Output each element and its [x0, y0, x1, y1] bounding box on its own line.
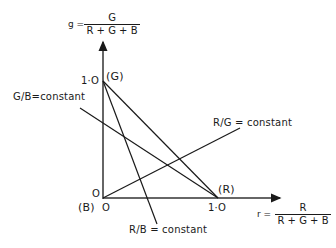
g-unit-tick: 1·O — [81, 76, 99, 86]
r-over-g-label: R/G = constant — [213, 118, 292, 128]
origin-tick-y: O — [92, 189, 100, 199]
origin-tick-x: O — [102, 203, 110, 213]
g-axis-numerator: G — [84, 13, 140, 24]
g-axis-var: g = — [68, 20, 84, 29]
r-axis-numerator: R — [275, 203, 331, 214]
g-axis-denominator: R + G + B — [84, 24, 140, 36]
g-vertex-label: (G) — [106, 71, 124, 82]
r-unit-tick: 1·O — [208, 203, 226, 213]
r-axis-var: r = — [257, 210, 271, 219]
g-to-r-edge — [103, 81, 218, 198]
r-axis-denominator: R + G + B — [275, 214, 331, 226]
g-over-b-label: G/B=constant — [13, 92, 85, 102]
g-axis-fraction: G R + G + B — [84, 13, 140, 36]
r-axis-fraction: R R + G + B — [275, 203, 331, 226]
g-over-b-line — [80, 108, 218, 198]
r-vertex-label: (R) — [218, 184, 235, 195]
r-over-b-label: R/B = constant — [129, 225, 207, 235]
origin-label: (B) — [78, 202, 95, 213]
